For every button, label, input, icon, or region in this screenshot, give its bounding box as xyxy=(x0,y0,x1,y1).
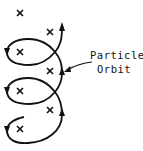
orbit-label-line2: Orbit xyxy=(97,63,131,75)
orbit-diagram xyxy=(0,0,143,151)
label-pointer-arrow xyxy=(64,62,92,72)
x-marker-icon xyxy=(17,88,23,94)
arrow-up-icon xyxy=(59,22,65,31)
arrow-down-icon xyxy=(4,126,10,134)
arrow-up-icon xyxy=(59,67,65,75)
x-marker-icon xyxy=(17,49,23,55)
arrow-up-icon xyxy=(59,108,65,116)
x-marker-icon xyxy=(47,29,53,35)
orbit-label-line1: Particle xyxy=(90,49,143,61)
x-marker-icon xyxy=(47,68,53,74)
field-markers xyxy=(17,10,53,132)
arrow-down-icon xyxy=(4,48,10,56)
x-marker-icon xyxy=(47,107,53,113)
x-marker-icon xyxy=(17,126,23,132)
arrow-left-icon xyxy=(64,66,71,72)
particle-orbit-path xyxy=(7,28,62,143)
arrow-down-icon xyxy=(4,87,10,95)
x-marker-icon xyxy=(17,10,23,16)
